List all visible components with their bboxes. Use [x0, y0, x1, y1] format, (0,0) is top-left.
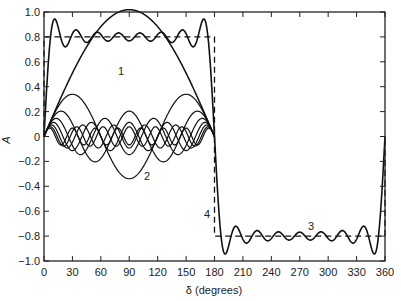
x-tick-label: 150: [177, 266, 195, 278]
y-tick-label: 0.4: [25, 81, 40, 93]
x-tick-label: 60: [95, 266, 107, 278]
x-tick-label: 300: [319, 266, 337, 278]
y-tick-label: −0.8: [18, 230, 40, 242]
harmonic-15: [44, 128, 215, 145]
x-tick-label: 360: [376, 266, 394, 278]
y-tick-label: −1.0: [18, 255, 40, 267]
x-tick-label: 120: [148, 266, 166, 278]
x-tick-label: 240: [262, 266, 280, 278]
y-axis-label: A: [0, 136, 12, 144]
y-tick-label: 0.6: [25, 56, 40, 68]
plot-area: [44, 10, 385, 254]
x-tick-label: 180: [205, 266, 223, 278]
y-tick-label: 0.2: [25, 106, 40, 118]
x-tick-label: 90: [123, 266, 135, 278]
y-tick-label: −0.2: [18, 155, 40, 167]
y-tick-label: −0.4: [18, 180, 40, 192]
y-tick-label: 0: [34, 131, 40, 143]
harmonic-3: [44, 94, 215, 179]
curve-label-3: 3: [308, 220, 314, 232]
y-tick-label: −0.6: [18, 205, 40, 217]
curve-label-4: 4: [204, 208, 210, 220]
y-tick-label: 1.0: [25, 6, 40, 18]
axis-ticks: 03060901201501802102402703003303601.00.8…: [18, 6, 394, 278]
x-tick-label: 330: [347, 266, 365, 278]
curve-label-2: 2: [144, 170, 150, 182]
fourier-chart: 03060901201501802102402703003303601.00.8…: [0, 0, 401, 301]
x-tick-label: 210: [234, 266, 252, 278]
curve-label-1: 1: [118, 65, 124, 77]
y-tick-label: 0.8: [25, 31, 40, 43]
x-tick-label: 0: [41, 266, 47, 278]
x-axis-label: δ (degrees): [186, 284, 242, 296]
x-tick-label: 30: [66, 266, 78, 278]
x-tick-label: 270: [291, 266, 309, 278]
